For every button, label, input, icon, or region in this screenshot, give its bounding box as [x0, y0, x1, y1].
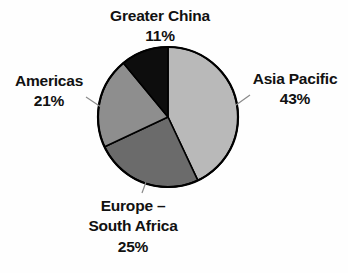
pie-chart-figure: Greater China 11% Asia Pacific 43% Ameri…	[0, 0, 348, 273]
slice-label-americas: Americas 21%	[2, 71, 96, 112]
slice-label-asia-pacific-percent: 43%	[243, 89, 347, 109]
slice-label-europe-south-africa: Europe – South Africa 25%	[63, 196, 203, 257]
slice-label-europe-south-africa-percent: 25%	[63, 237, 203, 257]
slice-label-greater-china-percent: 11%	[60, 26, 260, 46]
slice-label-asia-pacific-name: Asia Pacific	[243, 69, 347, 89]
slice-label-greater-china-name: Greater China	[60, 6, 260, 26]
slice-label-greater-china: Greater China 11%	[60, 6, 260, 47]
slice-label-asia-pacific: Asia Pacific 43%	[243, 69, 347, 110]
slice-label-europe-south-africa-name-line2: South Africa	[63, 216, 203, 236]
slice-label-europe-south-africa-name-line1: Europe –	[63, 196, 203, 216]
slice-label-americas-name: Americas	[2, 71, 96, 91]
slice-label-americas-percent: 21%	[2, 91, 96, 111]
